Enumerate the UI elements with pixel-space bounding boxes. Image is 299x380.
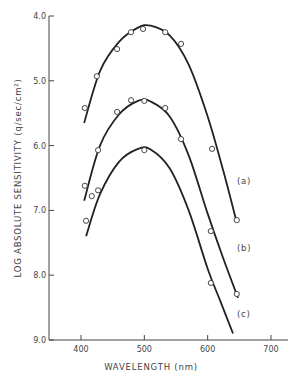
data-point bbox=[142, 98, 147, 103]
y-tick-label: 4.0 bbox=[33, 12, 46, 21]
data-point bbox=[89, 194, 94, 199]
y-tick-label: 7.0 bbox=[33, 206, 46, 215]
curve-b bbox=[84, 99, 238, 297]
data-point bbox=[208, 280, 213, 285]
curve-c bbox=[86, 147, 233, 333]
curve-a bbox=[84, 25, 236, 220]
x-tick-label: 400 bbox=[73, 345, 88, 354]
data-point bbox=[95, 148, 100, 153]
y-tick-label: 8.0 bbox=[33, 271, 46, 280]
data-point bbox=[82, 105, 87, 110]
label-curve-a: (a) bbox=[237, 176, 251, 186]
data-point bbox=[114, 109, 119, 114]
data-point bbox=[163, 105, 168, 110]
x-tick-label: 500 bbox=[137, 345, 152, 354]
data-point bbox=[163, 30, 168, 35]
series-curves bbox=[84, 25, 238, 333]
data-point bbox=[209, 146, 214, 151]
y-tick-label: 9.0 bbox=[33, 336, 46, 345]
label-curve-c: (c) bbox=[237, 309, 251, 319]
data-point bbox=[95, 188, 100, 193]
x-tick-label: 600 bbox=[200, 345, 215, 354]
data-point bbox=[83, 218, 88, 223]
x-tick-label: 700 bbox=[263, 345, 278, 354]
data-point bbox=[94, 74, 99, 79]
data-point bbox=[128, 30, 133, 35]
data-point bbox=[234, 218, 239, 223]
data-point bbox=[178, 137, 183, 142]
x-axis-ticks: 400500600700 bbox=[73, 335, 278, 354]
data-point bbox=[208, 229, 213, 234]
data-point bbox=[142, 148, 147, 153]
y-tick-label: 5.0 bbox=[33, 77, 46, 86]
series-points bbox=[82, 26, 239, 296]
data-point bbox=[82, 183, 87, 188]
y-axis-title: LOG ABSOLUTE SENSITIVITY (q/sec/cm²) bbox=[13, 78, 23, 277]
data-point bbox=[178, 41, 183, 46]
y-axis-ticks: 4.05.06.07.08.09.0 bbox=[33, 12, 54, 345]
x-axis-title: WAVELENGTH (nm) bbox=[104, 362, 198, 372]
data-point bbox=[234, 291, 239, 296]
label-curve-b: (b) bbox=[237, 243, 251, 253]
axes bbox=[49, 16, 288, 340]
chart-plot: 4.05.06.07.08.09.0 400500600700 (a) (b) … bbox=[0, 0, 299, 380]
y-tick-label: 6.0 bbox=[33, 142, 46, 151]
data-point bbox=[114, 46, 119, 51]
data-point bbox=[140, 26, 145, 31]
data-point bbox=[128, 98, 133, 103]
